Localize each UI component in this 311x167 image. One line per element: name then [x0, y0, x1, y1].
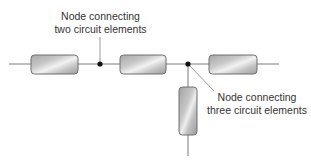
label-node-three: Node connecting three circuit elements [207, 91, 307, 116]
label-node-three-line1: Node connecting [207, 91, 307, 104]
circuit-diagram [0, 0, 311, 167]
label-node-two-line2: two circuit elements [52, 23, 149, 36]
node-two-dot [97, 61, 102, 66]
resistor-4 [179, 87, 197, 135]
label-node-three-line2: three circuit elements [207, 104, 307, 117]
node-three-dot [185, 61, 190, 66]
resistor-3 [209, 55, 257, 74]
resistor-2 [120, 55, 166, 74]
label-node-two: Node connecting two circuit elements [52, 10, 149, 35]
resistor-1 [31, 55, 78, 74]
label-node-two-line1: Node connecting [52, 10, 149, 23]
